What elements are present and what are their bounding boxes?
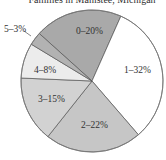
slice-label-0: 0–20% [76, 26, 103, 36]
slice-label-4: 4–8% [34, 65, 56, 75]
slice-label-3: 3–15% [38, 94, 65, 104]
slice-label-1: 1–32% [124, 65, 151, 75]
pie-chart: 0–20% 1–32% 2–22% 3–15% 4–8% 5–3% [0, 0, 166, 160]
slice-label-2: 2–22% [81, 120, 108, 130]
slice-label-5: 5–3% [4, 24, 26, 34]
